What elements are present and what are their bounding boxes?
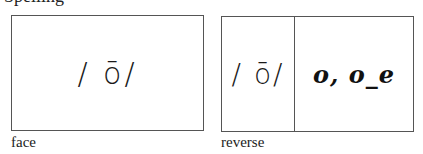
reverse-spelling-cell: o, o_e [295, 17, 413, 131]
face-caption: face [11, 134, 36, 151]
reverse-phoneme-cell: / ō/ [222, 17, 295, 131]
cut-off-heading: Spelling [4, 0, 64, 7]
face-card: / ō/ [11, 15, 204, 131]
face-card-content: / ō/ [12, 16, 203, 130]
reverse-spellings: o, o_e [313, 60, 395, 89]
reverse-caption: reverse [221, 134, 264, 151]
face-phoneme: / ō/ [77, 56, 137, 91]
reverse-card: / ō/ o, o_e [221, 16, 414, 132]
reverse-phoneme: / ō/ [232, 58, 285, 91]
